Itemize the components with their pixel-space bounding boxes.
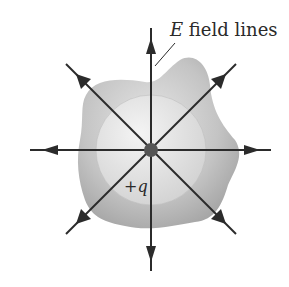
field-lines-label: E field lines bbox=[169, 19, 278, 40]
arrow-left-icon bbox=[42, 145, 58, 155]
label-leader-line bbox=[155, 43, 175, 66]
arrow-down-icon bbox=[146, 246, 156, 262]
arrow-right-icon bbox=[244, 145, 260, 155]
point-charge bbox=[144, 143, 158, 157]
arrow-up-icon bbox=[146, 38, 156, 54]
electric-field-diagram: E field lines +q bbox=[0, 0, 289, 287]
charge-label: +q bbox=[124, 177, 148, 196]
